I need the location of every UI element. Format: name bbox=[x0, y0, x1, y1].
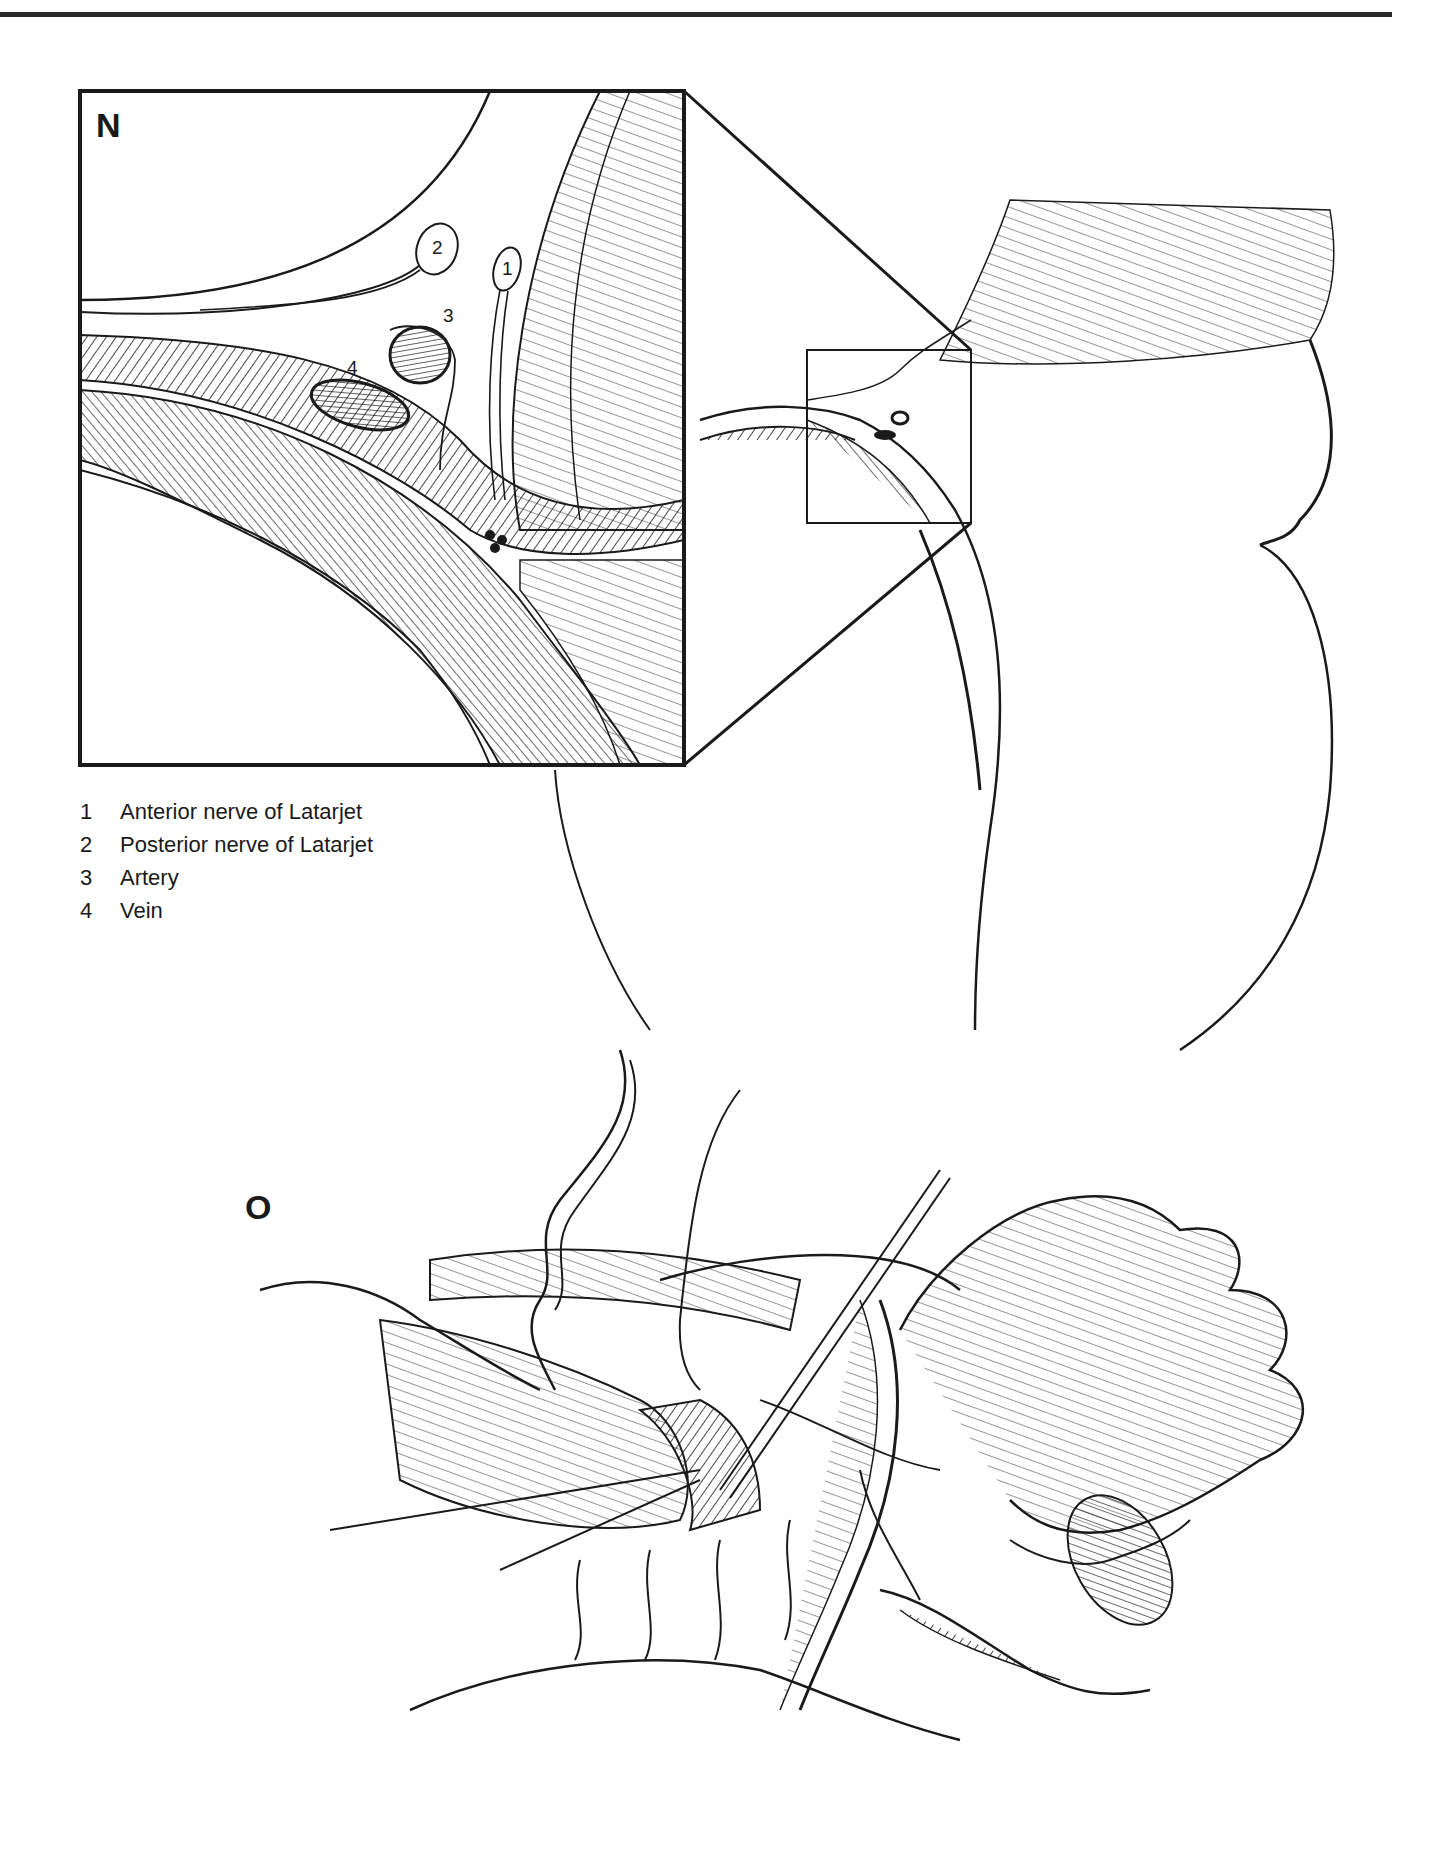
anatomical-illustration bbox=[0, 0, 1436, 1854]
legend-item: 3 Artery bbox=[80, 861, 373, 894]
legend-number: 2 bbox=[80, 832, 120, 858]
legend-number: 4 bbox=[80, 898, 120, 924]
callout-2: 2 bbox=[432, 238, 443, 257]
callout-3: 3 bbox=[443, 306, 454, 325]
legend-item: 2 Posterior nerve of Latarjet bbox=[80, 828, 373, 861]
legend-text: Artery bbox=[120, 865, 179, 891]
panel-label-o: O bbox=[245, 1190, 271, 1224]
legend-number: 3 bbox=[80, 865, 120, 891]
callout-4: 4 bbox=[347, 358, 358, 377]
legend: 1 Anterior nerve of Latarjet 2 Posterior… bbox=[80, 795, 373, 927]
legend-item: 1 Anterior nerve of Latarjet bbox=[80, 795, 373, 828]
legend-text: Anterior nerve of Latarjet bbox=[120, 799, 362, 825]
inset-box-n bbox=[80, 91, 684, 765]
panel-label-n: N bbox=[96, 108, 121, 142]
operative-scene bbox=[260, 1050, 1303, 1740]
legend-text: Vein bbox=[120, 898, 163, 924]
legend-text: Posterior nerve of Latarjet bbox=[120, 832, 373, 858]
legend-number: 1 bbox=[80, 799, 120, 825]
callout-1: 1 bbox=[502, 259, 513, 278]
legend-item: 4 Vein bbox=[80, 894, 373, 927]
